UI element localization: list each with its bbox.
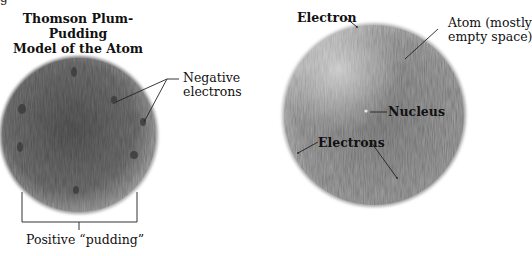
negative-electrons-label: Negative electrons — [183, 71, 242, 99]
atom-label-line2: empty space) — [448, 30, 532, 44]
plum-pudding-sphere — [0, 56, 158, 214]
negative-electrons-line2: electrons — [183, 85, 242, 99]
left-title-line1: Thomson Plum-Pudding — [8, 11, 148, 41]
nucleus-label: Nucleus — [388, 105, 445, 119]
figure-label-fragment: g — [0, 0, 8, 5]
electron-label: Electron — [297, 11, 357, 25]
negative-electrons-line1: Negative — [183, 71, 242, 85]
left-title-line2: Model of the Atom — [8, 41, 148, 56]
electrons-label: Electrons — [318, 136, 385, 150]
positive-pudding-label: Positive “pudding” — [26, 233, 144, 247]
nucleus-dot — [364, 109, 367, 112]
atom-empty-space-label: Atom (mostly empty space) — [448, 16, 532, 44]
left-panel-title: Thomson Plum-Pudding Model of the Atom — [8, 11, 148, 56]
atom-label-line1: Atom (mostly — [448, 16, 532, 30]
